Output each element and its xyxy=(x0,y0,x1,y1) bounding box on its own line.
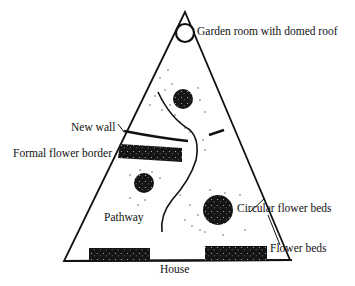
label-flower-beds: Flower beds xyxy=(270,242,327,254)
label-circular-beds: Circular flower beds xyxy=(237,202,332,214)
flower-bed-left xyxy=(89,248,150,261)
circular-flower-bed-right xyxy=(203,195,233,225)
label-new-wall: New wall xyxy=(71,121,115,133)
label-garden-room: Garden room with domed roof xyxy=(197,25,338,37)
label-pathway: Pathway xyxy=(104,211,144,224)
garden-room-icon xyxy=(176,24,194,42)
label-house: House xyxy=(160,263,189,275)
leader-new-wall xyxy=(118,124,124,132)
label-formal-border: Formal flower border xyxy=(13,147,112,159)
garden-boundary xyxy=(64,12,290,261)
circular-flower-bed-left xyxy=(134,173,154,193)
circular-flower-bed-top xyxy=(173,89,193,109)
flower-bed-right xyxy=(205,246,267,260)
garden-plan-diagram: Garden room with domed roof New wall For… xyxy=(0,0,355,286)
